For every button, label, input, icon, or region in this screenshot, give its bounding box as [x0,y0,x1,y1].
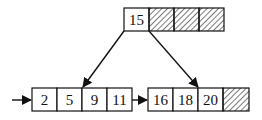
leaf1-key-1: 18 [178,92,193,108]
root-key-0: 15 [129,12,144,28]
root-node: 15 [124,8,224,31]
leaf0-key-3: 11 [112,92,126,108]
leaf-node-1: 16 18 20 [148,88,249,111]
leaf1-key-0: 16 [153,92,169,108]
root-cell-empty-2 [174,8,199,31]
leaf0-key-1: 5 [66,92,74,108]
leaf0-key-0: 2 [41,92,49,108]
b-plus-tree-diagram: 15 2 5 9 11 16 18 20 [0,0,262,120]
leaf1-key-2: 20 [203,92,218,108]
root-cell-empty-1 [149,8,174,31]
leaf1-cell-empty-3 [223,88,249,111]
leaf0-key-2: 9 [91,92,99,108]
root-cell-empty-3 [199,8,224,31]
root-to-leaf0-arrow [83,31,124,87]
root-to-leaf1-arrow [149,31,198,87]
leaf-node-0: 2 5 9 11 [32,88,132,111]
